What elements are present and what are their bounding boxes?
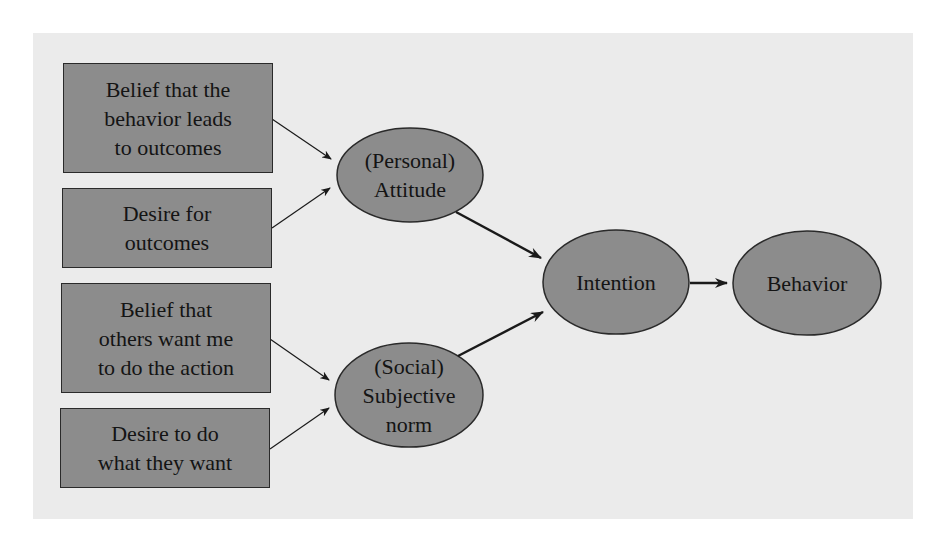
node-line: (Personal) bbox=[365, 146, 455, 175]
node-behavior: Behavior bbox=[733, 231, 881, 335]
box-line: behavior leads bbox=[104, 104, 232, 133]
box-line: to do the action bbox=[98, 353, 234, 382]
edge-belief-outcomes-to-attitude bbox=[272, 119, 331, 159]
node-attitude: (Personal) Attitude bbox=[337, 128, 483, 222]
box-line: what they want bbox=[98, 448, 232, 477]
box-line: Belief that bbox=[98, 295, 234, 324]
edge-desire-outcomes-to-attitude bbox=[272, 188, 330, 228]
box-belief-outcomes: Belief that the behavior leads to outcom… bbox=[63, 63, 273, 173]
box-belief-others: Belief that others want me to do the act… bbox=[61, 283, 271, 393]
box-line: outcomes bbox=[123, 228, 212, 257]
node-line: Behavior bbox=[767, 269, 848, 298]
box-desire-outcomes: Desire for outcomes bbox=[62, 188, 272, 268]
box-line: Desire to do bbox=[98, 419, 232, 448]
box-line: Belief that the bbox=[104, 75, 232, 104]
box-line: others want me bbox=[98, 324, 234, 353]
box-line: Desire for bbox=[123, 199, 212, 228]
node-line: Subjective bbox=[363, 381, 456, 410]
node-norm: (Social) Subjective norm bbox=[335, 343, 483, 447]
node-line: Attitude bbox=[365, 175, 455, 204]
edge-desire-others-to-norm bbox=[270, 408, 329, 449]
node-line: Intention bbox=[576, 268, 655, 297]
box-line: to outcomes bbox=[104, 133, 232, 162]
edge-belief-others-to-norm bbox=[270, 339, 329, 380]
node-line: norm bbox=[363, 410, 456, 439]
box-desire-others: Desire to do what they want bbox=[60, 408, 270, 488]
node-line: (Social) bbox=[363, 352, 456, 381]
node-intention: Intention bbox=[543, 230, 689, 334]
